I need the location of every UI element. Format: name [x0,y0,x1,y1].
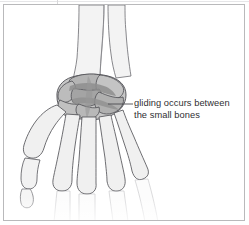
callout-label: gliding occurs between the small bones [134,97,246,122]
metacarpals [20,105,148,208]
forearm-bones [73,5,131,80]
anatomy-figure: gliding occurs between the small bones [0,0,249,225]
